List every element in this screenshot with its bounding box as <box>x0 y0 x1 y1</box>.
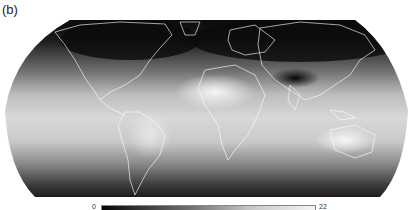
colorbar-max-label: 22 <box>319 203 327 210</box>
world-map <box>0 0 413 210</box>
colorbar-min-label: 0 <box>92 203 96 210</box>
map-figure: (b) <box>0 0 413 210</box>
map-field <box>0 18 413 200</box>
colorbar <box>101 205 316 210</box>
